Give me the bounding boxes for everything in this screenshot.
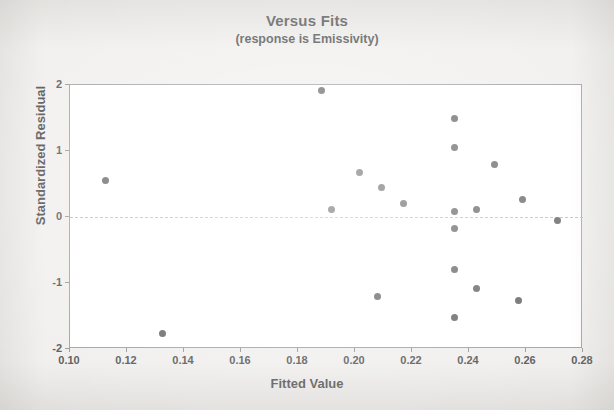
x-axis-tick-label: 0.20 [334, 354, 374, 366]
x-axis-tick-label: 0.16 [220, 354, 260, 366]
x-axis-label: Fitted Value [0, 376, 614, 391]
x-axis-tick-mark [525, 348, 526, 352]
x-axis-tick-mark [297, 348, 298, 352]
x-axis-tick-label: 0.28 [562, 354, 602, 366]
x-axis-tick-label: 0.14 [163, 354, 203, 366]
x-axis-tick-label: 0.12 [106, 354, 146, 366]
x-axis-ticks: 0.100.120.140.160.180.200.220.240.260.28 [0, 0, 614, 410]
x-axis-tick-mark [582, 348, 583, 352]
x-axis-tick-mark [183, 348, 184, 352]
x-axis-tick-mark [69, 348, 70, 352]
x-axis-tick-label: 0.24 [448, 354, 488, 366]
x-axis-tick-label: 0.18 [277, 354, 317, 366]
x-axis-tick-mark [126, 348, 127, 352]
x-axis-tick-label: 0.26 [505, 354, 545, 366]
x-axis-tick-label: 0.10 [49, 354, 89, 366]
x-axis-tick-mark [468, 348, 469, 352]
x-axis-tick-label: 0.22 [391, 354, 431, 366]
y-axis-label: Standardized Residual [33, 46, 48, 266]
versus-fits-chart: Versus Fits (response is Emissivity) 210… [0, 0, 614, 410]
x-axis-tick-mark [240, 348, 241, 352]
x-axis-tick-mark [354, 348, 355, 352]
x-axis-tick-mark [411, 348, 412, 352]
